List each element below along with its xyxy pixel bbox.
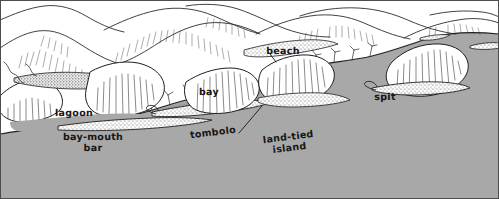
diagram-canvas bbox=[0, 0, 499, 199]
coastal-landform-diagram: lagoon bay-mouth bar tombolo bay land-ti… bbox=[0, 0, 499, 199]
